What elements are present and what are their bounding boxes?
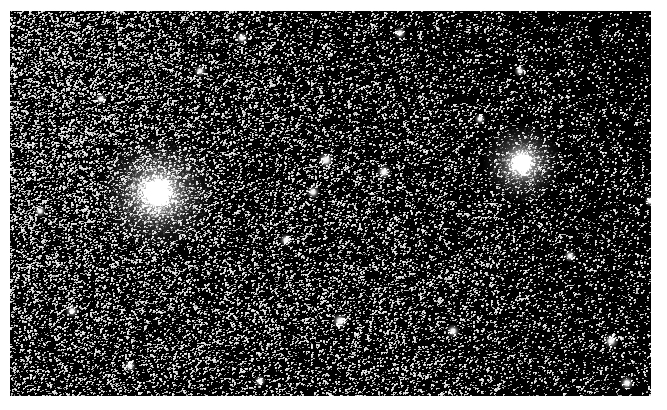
plate-frame	[0, 0, 667, 410]
star-field-image	[10, 11, 651, 396]
globular-clusters-layer	[10, 11, 651, 396]
